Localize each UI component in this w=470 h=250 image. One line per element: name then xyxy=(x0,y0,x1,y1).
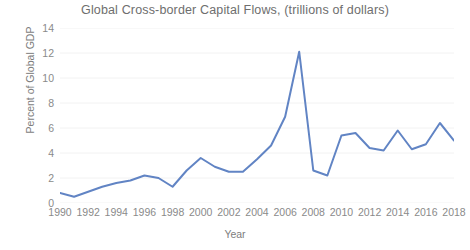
y-tick-label: 6 xyxy=(48,123,54,134)
x-tick-label: 1994 xyxy=(105,207,128,218)
x-tick-label: 1998 xyxy=(161,207,184,218)
line-chart: Global Cross-border Capital Flows, (tril… xyxy=(0,0,470,250)
plot-area xyxy=(60,28,454,203)
y-tick-label: 4 xyxy=(48,148,54,159)
x-tick-label: 2004 xyxy=(245,207,268,218)
data-series-line xyxy=(60,28,454,203)
x-tick-label: 2010 xyxy=(330,207,353,218)
x-tick-label: 1996 xyxy=(133,207,156,218)
chart-title: Global Cross-border Capital Flows, (tril… xyxy=(0,3,470,17)
x-tick-label: 1992 xyxy=(76,207,99,218)
x-axis-tick-labels: 1990199219941996199820002002200420062008… xyxy=(60,207,454,221)
y-tick-label: 14 xyxy=(42,23,54,34)
y-tick-label: 8 xyxy=(48,98,54,109)
x-tick-label: 1990 xyxy=(48,207,71,218)
x-tick-label: 2002 xyxy=(217,207,240,218)
x-axis-title: Year xyxy=(0,228,470,240)
y-tick-label: 2 xyxy=(48,173,54,184)
x-tick-label: 2016 xyxy=(414,207,437,218)
x-tick-label: 2014 xyxy=(386,207,409,218)
x-tick-label: 2006 xyxy=(273,207,296,218)
y-axis-tick-labels: 14121086420 xyxy=(32,28,54,203)
x-tick-label: 2008 xyxy=(302,207,325,218)
y-tick-label: 12 xyxy=(42,48,54,59)
x-tick-label: 2000 xyxy=(189,207,212,218)
x-tick-label: 2018 xyxy=(442,207,465,218)
y-tick-label: 10 xyxy=(42,73,54,84)
x-tick-label: 2012 xyxy=(358,207,381,218)
